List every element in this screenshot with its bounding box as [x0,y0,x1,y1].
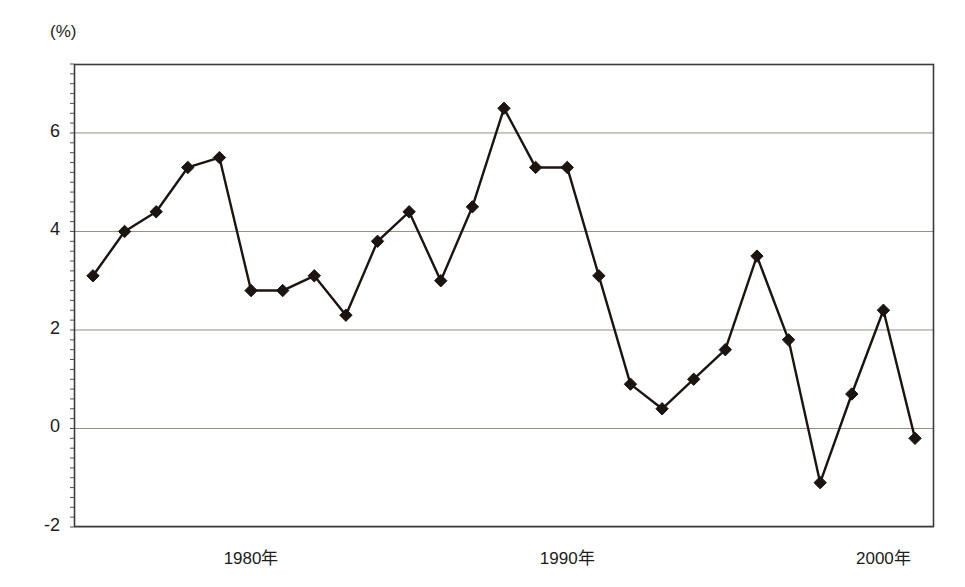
x-axis-tick-label: 2000年 [856,544,911,569]
data-point-marker [751,250,763,262]
data-point-marker [498,102,510,114]
data-point-marker [593,270,605,282]
data-point-marker [529,161,541,173]
data-point-marker [435,275,447,287]
line-chart-plot [0,0,965,587]
y-axis-tick-label: 0 [12,416,60,437]
data-point-marker [276,284,288,296]
x-axis-tick-label: 1990年 [540,544,595,569]
data-point-marker [877,304,889,316]
chart-figure: (%) -202461980年1990年2000年 [0,0,965,587]
data-point-marker [846,388,858,400]
x-axis-tick-label: 1980年 [224,544,279,569]
y-axis-tick-label: 2 [12,318,60,339]
data-point-marker [909,432,921,444]
data-point-marker [466,201,478,213]
y-axis-tick-label: 6 [12,121,60,142]
data-point-marker [814,476,826,488]
y-axis-tick-label: -2 [12,515,60,536]
data-line [93,108,915,482]
y-axis-tick-label: 4 [12,219,60,240]
data-point-marker [213,151,225,163]
data-point-marker [782,334,794,346]
data-point-marker [245,284,257,296]
data-point-marker [561,161,573,173]
plot-frame [75,65,934,527]
